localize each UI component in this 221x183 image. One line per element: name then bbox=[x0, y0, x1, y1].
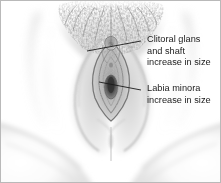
annotation-labia-minora-line-1: Labia minora bbox=[147, 83, 211, 95]
annotation-clitoral-glans-line-2: and shaft bbox=[147, 46, 211, 58]
annotation-clitoral-glans-line-1: Clitoral glans bbox=[147, 34, 211, 46]
annotation-labia-minora: Labia minora increase in size bbox=[147, 83, 211, 106]
annotation-labia-minora-line-2: increase in size bbox=[147, 95, 211, 107]
anatomy-figure: Clitoral glans and shaft increase in siz… bbox=[0, 0, 221, 183]
annotation-clitoral-glans-line-3: increase in size bbox=[147, 57, 211, 69]
annotation-clitoral-glans: Clitoral glans and shaft increase in siz… bbox=[147, 34, 211, 69]
urethral-opening bbox=[109, 62, 113, 67]
vaginal-opening bbox=[105, 75, 118, 99]
